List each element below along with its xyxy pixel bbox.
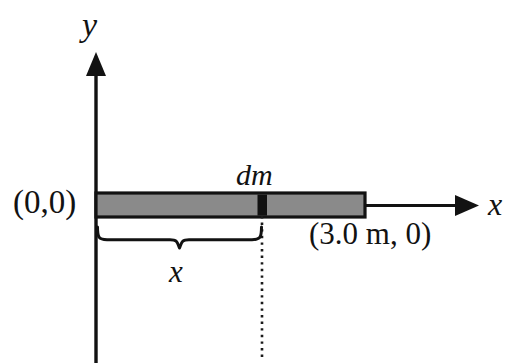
physics-diagram-rod-dm: y x (0,0) dm (3.0 m, 0) x bbox=[0, 0, 515, 363]
rod-end-coordinate-label: (3.0 m, 0) bbox=[309, 218, 431, 249]
distance-x-label: x bbox=[169, 256, 183, 287]
distance-brace bbox=[98, 227, 262, 248]
mass-element-label: dm bbox=[236, 160, 273, 190]
x-axis-label: x bbox=[488, 188, 502, 220]
y-axis-label: y bbox=[82, 8, 97, 42]
x-axis-arrowhead-icon bbox=[455, 195, 479, 216]
mass-element-dm bbox=[258, 195, 268, 216]
y-axis-arrowhead-icon bbox=[86, 52, 106, 76]
origin-coordinate-label: (0,0) bbox=[13, 186, 76, 219]
rod-body bbox=[96, 193, 365, 217]
rod-group bbox=[96, 193, 365, 217]
